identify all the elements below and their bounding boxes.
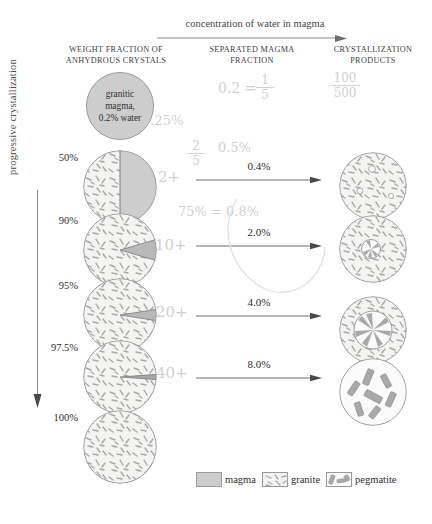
pie-crystal-100 <box>83 410 157 484</box>
handwriting-fraction-denominator: 5 <box>188 155 204 167</box>
column-header-line1: WEIGHT FRACTION OF <box>48 45 184 56</box>
handwriting-40-plus: 40+ <box>156 364 188 382</box>
transfer-arrow-row4 <box>196 374 322 382</box>
progressive-crystallization-axis-label: progressive crystallization <box>7 17 21 217</box>
top-cutoff-text: · · · · · · · · · · · · · <box>0 0 432 6</box>
transfer-arrow-row1 <box>196 176 322 184</box>
magma-swatch-icon <box>196 472 222 487</box>
handwriting-fraction-numerator: 100 <box>330 72 360 84</box>
handwriting-fraction-hundred-five-hundred: 100 500 <box>330 72 360 99</box>
pie-crystal-90 <box>83 213 157 287</box>
column-header-line2: FRACTION <box>194 56 310 67</box>
pegmatite-swatch-icon <box>326 472 352 487</box>
water-pct-label-row3: 4.0% <box>196 296 322 308</box>
legend-label-pegmatite: pegmatite <box>355 474 396 485</box>
column-header-line2: ANHYDROUS CRYSTALS <box>48 56 184 67</box>
pie-crystal-975 <box>83 340 157 414</box>
water-pct-label-row4: 8.0% <box>196 358 322 370</box>
granite-swatch-icon <box>262 472 288 487</box>
handwriting-2-plus: 2+ <box>158 168 180 186</box>
handwriting-10-plus: 10+ <box>155 236 187 254</box>
crystal-pct-label-90: 90% <box>52 215 78 226</box>
handwriting-fraction-numerator: 2 <box>188 140 204 152</box>
granitic-magma-label: granitic magma, 0.2% water <box>99 88 141 124</box>
product-circle-row3 <box>339 296 407 364</box>
handwriting-0-2-equals: 0.2 = <box>218 80 256 96</box>
column-header-crystallization-products: CRYSTALLIZATION PRODUCTS <box>318 45 428 66</box>
granitic-magma-line3: 0.2% water <box>99 112 141 124</box>
handwriting-0-5-pct: 0.5% <box>218 140 251 155</box>
legend-label-granite: granite <box>291 474 320 485</box>
handwriting-fraction-denominator: 5 <box>256 89 274 101</box>
concentration-axis-label: concentration of water in magma <box>150 18 360 29</box>
transfer-arrow-row3 <box>196 312 322 320</box>
crystal-pct-label-975: 97.5% <box>42 342 78 353</box>
crystal-pct-label-95: 95% <box>52 280 78 291</box>
legend-label-magma: magma <box>225 474 256 485</box>
legend: magma granite <box>196 468 432 490</box>
legend-item-granite: granite <box>262 472 320 487</box>
handwriting-75-pct-equals-0-8-pct: 75% = 0.8% <box>178 204 259 219</box>
crystal-pct-label-100: 100% <box>46 412 78 423</box>
progressive-crystallization-axis-line <box>37 190 38 398</box>
granitic-magma-line2: magma, <box>99 100 141 112</box>
product-circle-row4 <box>339 358 407 426</box>
handwriting-20-plus: 20+ <box>156 303 188 321</box>
handwriting-fraction-two-fifths: 2 5 <box>188 140 204 167</box>
diagram-canvas: · · · · · · · · · · · · · concentration … <box>0 0 432 524</box>
column-header-line1: SEPARATED MAGMA <box>194 45 310 56</box>
product-circle-row1 <box>339 152 407 220</box>
handwriting-fraction-denominator: 500 <box>330 87 360 99</box>
legend-item-magma: magma <box>196 472 256 487</box>
legend-item-pegmatite: pegmatite <box>326 472 396 487</box>
column-header-line1: CRYSTALLIZATION <box>318 45 428 56</box>
column-header-weight-fraction: WEIGHT FRACTION OF ANHYDROUS CRYSTALS <box>48 45 184 66</box>
handwriting-fraction-one-fifth: 1 5 <box>256 74 274 101</box>
column-header-separated-magma: SEPARATED MAGMA FRACTION <box>194 45 310 66</box>
handwriting-fraction-numerator: 1 <box>256 74 274 86</box>
granitic-magma-line1: granitic <box>99 88 141 100</box>
concentration-axis-arrow <box>157 35 347 42</box>
product-circle-row2 <box>339 215 407 283</box>
progressive-crystallization-axis-arrow <box>33 394 42 408</box>
column-header-line2: PRODUCTS <box>318 56 428 67</box>
granitic-magma-circle: granitic magma, 0.2% water <box>86 72 154 140</box>
water-pct-label-row2: 2.0% <box>196 226 322 238</box>
crystal-pct-label-50: 50% <box>52 152 78 163</box>
water-pct-label-row1: 0.4% <box>196 160 322 172</box>
transfer-arrow-row2 <box>196 242 322 250</box>
